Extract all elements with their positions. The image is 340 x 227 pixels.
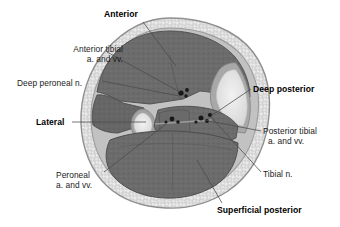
label-lateral: Lateral xyxy=(36,117,65,127)
label-anterior: Anterior xyxy=(104,9,138,19)
leg-cross-section-illustration xyxy=(0,0,340,227)
label-deep-posterior: Deep posterior xyxy=(253,84,314,94)
label-superficial-posterior: Superficial posterior xyxy=(217,205,302,215)
label-posterior-tibial-line2: a. and vv. xyxy=(263,136,317,146)
label-posterior-tibial-line1: Posterior tibial xyxy=(263,126,317,136)
label-peroneal: Peroneal a. and vv. xyxy=(56,170,92,190)
label-tibial-nerve: Tibial n. xyxy=(263,169,292,179)
anatomy-figure-page: Anterior Anterior tibial a. and vv. Deep… xyxy=(0,0,340,227)
tibial-nerve-dot xyxy=(208,113,212,117)
label-peroneal-line2: a. and vv. xyxy=(56,180,92,190)
label-peroneal-line1: Peroneal xyxy=(56,170,92,180)
label-posterior-tibial: Posterior tibial a. and vv. xyxy=(263,126,317,146)
label-anterior-tibial-line1: Anterior tibial xyxy=(39,44,123,54)
label-deep-peroneal: Deep peroneal n. xyxy=(17,78,82,88)
label-anterior-tibial: Anterior tibial a. and vv. xyxy=(39,44,123,64)
label-anterior-tibial-line2: a. and vv. xyxy=(39,54,123,64)
